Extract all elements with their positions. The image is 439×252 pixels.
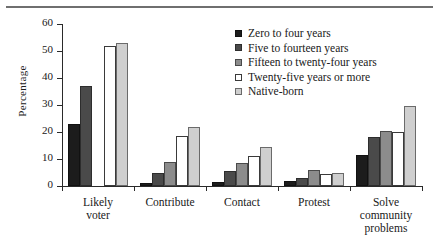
- x-axis-label-line: Solve: [350, 196, 422, 209]
- x-tick: [62, 186, 63, 191]
- y-tick-label: 20: [42, 124, 53, 136]
- legend-item: Twenty-five years or more: [235, 70, 377, 85]
- bar: [68, 124, 80, 186]
- bar: [392, 132, 404, 186]
- x-tick: [278, 186, 279, 191]
- legend-swatch-icon: [235, 30, 242, 37]
- bar: [236, 163, 248, 186]
- x-axis-label-line: Contact: [206, 196, 278, 209]
- bar: [164, 162, 176, 186]
- x-axis-label-line: community: [350, 209, 422, 222]
- bar: [380, 131, 392, 186]
- legend-item: Fifteen to twenty-four years: [235, 55, 377, 70]
- x-axis-line: [62, 186, 422, 187]
- legend-label: Native-born: [248, 84, 304, 99]
- x-axis-label: Likelyvoter: [62, 196, 134, 222]
- y-tick-label: 10: [42, 151, 53, 163]
- bar: [80, 86, 92, 186]
- x-axis-label-line: Likely: [62, 196, 134, 209]
- x-tick: [206, 186, 207, 191]
- legend-item: Zero to four years: [235, 26, 377, 41]
- x-axis-label-line: voter: [62, 209, 134, 222]
- bar: [368, 137, 380, 186]
- bar: [308, 170, 320, 186]
- bar: [320, 174, 332, 186]
- bar: [224, 171, 236, 186]
- bar: [404, 106, 416, 186]
- x-axis-label: Contact: [206, 196, 278, 209]
- x-axis-label: Protest: [278, 196, 350, 209]
- legend-label: Zero to four years: [248, 26, 331, 41]
- bar: [176, 136, 188, 186]
- bar: [284, 181, 296, 186]
- bar-group: [62, 24, 134, 186]
- x-axis-label: Contribute: [134, 196, 206, 209]
- legend-swatch-icon: [235, 59, 242, 66]
- bar: [152, 173, 164, 187]
- y-axis-title: Percentage: [16, 36, 28, 146]
- legend-label: Twenty-five years or more: [248, 70, 370, 85]
- bar: [212, 182, 224, 186]
- bar: [140, 183, 152, 186]
- bar-group: [134, 24, 206, 186]
- bar: [356, 155, 368, 186]
- bar: [296, 178, 308, 186]
- x-axis-label-line: problems: [350, 222, 422, 235]
- x-tick: [350, 186, 351, 191]
- y-tick-label: 60: [42, 16, 53, 28]
- top-divider: [6, 6, 433, 8]
- y-tick-label: 40: [42, 70, 53, 82]
- legend-swatch-icon: [235, 44, 242, 51]
- legend-swatch-icon: [235, 88, 242, 95]
- chart-legend: Zero to four yearsFive to fourteen years…: [235, 26, 377, 99]
- legend-swatch-icon: [235, 74, 242, 81]
- legend-item: Native-born: [235, 84, 377, 99]
- bar: [104, 46, 116, 186]
- y-tick-label: 30: [42, 97, 53, 109]
- x-tick: [422, 186, 423, 191]
- legend-item: Five to fourteen years: [235, 41, 377, 56]
- y-tick-label: 50: [42, 43, 53, 55]
- bar: [248, 156, 260, 186]
- x-axis-label: Solvecommunityproblems: [350, 196, 422, 235]
- legend-label: Five to fourteen years: [248, 41, 349, 56]
- legend-label: Fifteen to twenty-four years: [248, 55, 377, 70]
- bar: [260, 147, 272, 186]
- bar: [116, 43, 128, 186]
- bar: [188, 127, 200, 186]
- y-tick-label: 0: [48, 178, 54, 190]
- x-tick: [134, 186, 135, 191]
- chart-figure: Percentage 0102030405060 LikelyvoterCont…: [0, 0, 439, 252]
- x-axis-label-line: Contribute: [134, 196, 206, 209]
- bar: [332, 173, 344, 187]
- x-axis-label-line: Protest: [278, 196, 350, 209]
